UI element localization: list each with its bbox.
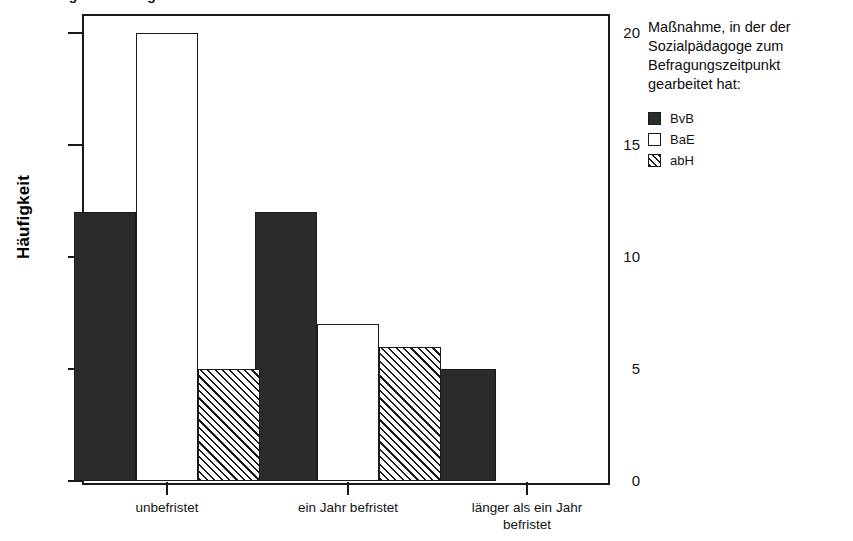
legend-items: BvBBaEabH [648,108,848,171]
plot-area [84,16,606,481]
legend-swatch-solid-icon [648,112,661,125]
legend-item-abh: abH [648,150,848,171]
legend-item-bae: BaE [648,129,848,150]
bar-abh-1 [379,347,441,481]
y-axis-tick [68,32,82,34]
legend-swatch-hollow-icon [648,133,661,146]
x-axis-category-label: unbefristet [92,499,242,516]
legend-label: BvB [670,112,694,125]
y-axis-label: Häufigkeit [14,157,34,277]
legend-title: Maßnahme, in der der Sozialpädagoge zum … [648,18,834,94]
bar-bae-1 [317,324,379,481]
bar-chart-figure: Häufigkeit 05101520 unbefristetein Jahr … [0,0,640,541]
y-axis-tick [68,144,82,146]
x-axis-category-label: länger als ein Jahr befristet [452,499,602,533]
x-axis-category-label: ein Jahr befristet [273,499,423,516]
legend: Maßnahme, in der der Sozialpädagoge zum … [648,18,848,171]
legend-label: BaE [670,133,695,146]
x-axis-tick [347,482,349,495]
legend-swatch-hatched-icon [648,154,661,167]
bar-bvb-2 [434,369,496,481]
x-axis-tick [166,482,168,495]
bar-abh-0 [198,369,260,481]
bar-bvb-0 [74,212,136,481]
legend-item-bvb: BvB [648,108,848,129]
legend-label: abH [670,154,694,167]
bar-bvb-1 [255,212,317,481]
bar-bae-0 [136,33,198,481]
x-axis-tick [526,482,528,495]
